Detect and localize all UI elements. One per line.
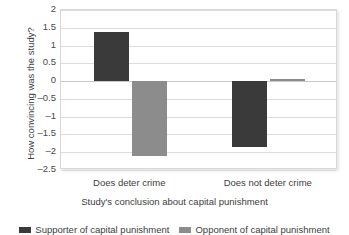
chart-legend: Supporter of capital punishmentOpponent … — [0, 225, 349, 235]
x-tick-label: Does not deter crime — [224, 177, 312, 188]
bar-opponent — [132, 81, 167, 156]
bar-opponent — [270, 79, 305, 81]
legend-item: Supporter of capital punishment — [19, 225, 169, 235]
y-tick-label: 1 — [51, 40, 56, 50]
legend-swatch-icon — [179, 227, 191, 233]
y-axis-tick-labels: 21.510.50–0.5–1–1.5–2–2.5 — [18, 0, 56, 190]
gridline — [61, 134, 336, 135]
gridline — [61, 152, 336, 153]
y-tick-label: 2 — [51, 4, 56, 14]
plot-area — [60, 9, 337, 169]
y-tick-label: –0.5 — [38, 93, 57, 103]
x-tick-label: Does deter crime — [93, 177, 165, 188]
x-axis-title: Study's conclusion about capital punishm… — [0, 196, 349, 207]
gridline — [61, 170, 336, 171]
bar-chart: How convincing was the study? 21.510.50–… — [0, 0, 349, 235]
legend-label: Supporter of capital punishment — [35, 225, 169, 235]
gridline — [61, 99, 336, 100]
gridline — [61, 117, 336, 118]
y-tick-label: –1.5 — [38, 129, 57, 139]
y-tick-label: 0 — [51, 75, 56, 85]
gridline — [61, 10, 336, 11]
y-tick-label: 0.5 — [43, 58, 56, 68]
bar-supporter — [94, 32, 129, 81]
bar-supporter — [232, 81, 267, 147]
gridline — [61, 28, 336, 29]
y-tick-label: –2.5 — [38, 164, 57, 174]
y-tick-label: –2 — [45, 146, 56, 156]
y-tick-label: 1.5 — [43, 22, 56, 32]
zero-line — [61, 81, 336, 82]
legend-swatch-icon — [19, 227, 31, 233]
legend-item: Opponent of capital punishment — [179, 225, 329, 235]
legend-label: Opponent of capital punishment — [195, 225, 329, 235]
y-tick-label: –1 — [45, 111, 56, 121]
